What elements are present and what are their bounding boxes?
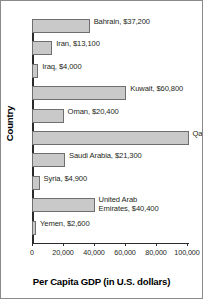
bar-value-label: Oman, $20,400 [68,108,119,116]
bar [32,153,65,167]
x-axis-tick [125,243,126,246]
bar-chart: Country Per Capita GDP (in U.S. dollars)… [0,0,203,299]
bar [32,64,38,78]
x-axis-tick [187,243,188,246]
bar-value-label: Iran, $13,100 [56,40,99,48]
bar-row: Syria, $4,900 [32,176,187,190]
bar [32,41,52,55]
x-axis-tick [94,243,95,246]
x-axis-tick-label: 40,000 [83,248,104,257]
x-axis-tick-label: 100,000 [174,248,199,257]
bar-value-label: Kuwait, $60,800 [130,85,183,93]
x-axis-tick [63,243,64,246]
bar [32,176,40,190]
bar-value-label: Syria, $4,900 [44,175,87,183]
x-axis-tick-label: 60,000 [114,248,135,257]
y-axis-title: Country [4,94,15,154]
bar-value-label: Yemen, $2,600 [40,220,90,228]
bar [32,198,95,212]
bar-row: United Arab Emirates, $40,400 [32,198,187,212]
bar-row: Oman, $20,400 [32,109,187,123]
bar-value-label: Bahrain, $37,200 [94,18,150,26]
x-axis-line [32,243,189,244]
bar-row: Iraq, $4,000 [32,64,187,78]
bar-row: Saudi Arabia, $21,300 [32,153,187,167]
bar-row: Qatar, $101,000 [32,131,187,145]
x-axis-tick-label: 80,000 [145,248,166,257]
x-axis-tick-label: 0 [30,248,34,257]
bar-row: Kuwait, $60,800 [32,86,187,100]
bar [32,86,126,100]
x-axis-tick-label: 20,000 [52,248,73,257]
bar-row: Iran, $13,100 [32,41,187,55]
bar-row: Bahrain, $37,200 [32,19,187,33]
bar-value-label: United Arab Emirates, $40,400 [99,196,161,213]
x-axis-title: Per Capita GDP (in U.S. dollars) [1,276,202,287]
x-axis-tick [32,243,33,246]
x-axis-tick [156,243,157,246]
bar [32,109,64,123]
bar-value-label: Saudi Arabia, $21,300 [69,152,142,160]
bar-value-label: Qatar, $101,000 [193,130,203,138]
bar [32,131,189,145]
bar-value-label: Iraq, $4,000 [42,63,81,71]
bar [32,19,90,33]
bar-row: Yemen, $2,600 [32,221,187,235]
bar [32,221,36,235]
